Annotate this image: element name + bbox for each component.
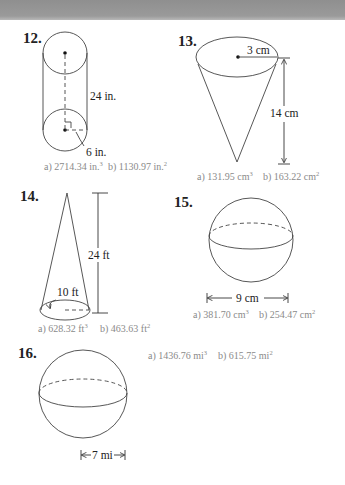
svg-text:a) 1436.76 mi3: a) 1436.76 mi3: [148, 349, 207, 362]
problem-14: 14. 10 ft 24 ft a) 628.32 ft3 b) 463.63 …: [20, 188, 150, 335]
right-angle-mark: [65, 122, 71, 128]
radius-label: 3 cm: [247, 44, 270, 56]
problem-number: 16.: [18, 345, 37, 361]
svg-text:a) 131.95 cm3: a) 131.95 cm3: [197, 170, 253, 183]
answers: a) 2714.34 in.3 b) 1130.97 in.2: [44, 160, 167, 173]
svg-text:b) 463.63 ft2: b) 463.63 ft2: [100, 322, 150, 335]
problem-number: 14.: [20, 188, 39, 204]
svg-text:b) 1130.97 in.2: b) 1130.97 in.2: [108, 160, 167, 173]
problem-number: 15.: [174, 194, 193, 210]
cylinder-shape: [43, 32, 87, 151]
radius-label: 6 in.: [86, 146, 107, 158]
svg-text:a) 381.70 cm3: a) 381.70 cm3: [193, 308, 249, 321]
diameter-label: 9 cm: [236, 292, 259, 304]
radius-pointer: [76, 132, 84, 146]
problem-12: 12. 24 in. 6 in. a) 2714.34 in.3 b) 1130…: [23, 30, 167, 173]
problem-number: 12.: [23, 30, 42, 46]
height-label: 24 ft: [88, 249, 110, 261]
answers: a) 131.95 cm3 b) 163.22 cm2: [197, 170, 319, 183]
cone-shape: [40, 193, 90, 320]
answers: a) 381.70 cm3 b) 254.47 cm2: [193, 308, 315, 321]
svg-text:b) 254.47 cm2: b) 254.47 cm2: [259, 308, 315, 321]
svg-text:b) 615.75 mi2: b) 615.75 mi2: [218, 349, 273, 362]
radius-label: 7 mi: [92, 449, 113, 461]
svg-text:b) 163.22 cm2: b) 163.22 cm2: [263, 170, 319, 183]
problem-16: 16. 7 mi a) 1436.76 mi3 b) 615.75 mi2: [18, 345, 273, 461]
svg-text:a) 628.32 ft3: a) 628.32 ft3: [38, 322, 88, 335]
top-center-dot: [63, 51, 67, 55]
worksheet-page: 12. 24 in. 6 in. a) 2714.34 in.3 b) 1130…: [0, 0, 345, 485]
answers: a) 628.32 ft3 b) 463.63 ft2: [38, 322, 150, 335]
answers: a) 1436.76 mi3 b) 615.75 mi2: [148, 349, 273, 362]
problem-15: 15. 9 cm a) 381.70 cm3 b) 254.47 cm2: [174, 194, 315, 321]
radius-label: 10 ft: [57, 286, 79, 298]
sphere-shape: [209, 198, 293, 282]
geometry-diagrams: 12. 24 in. 6 in. a) 2714.34 in.3 b) 1130…: [0, 0, 345, 485]
height-label: 14 cm: [270, 107, 298, 119]
height-label: 24 in.: [90, 90, 116, 102]
sphere-shape: [39, 350, 127, 438]
problem-number: 13.: [178, 33, 197, 49]
svg-text:a) 2714.34 in.3: a) 2714.34 in.3: [44, 160, 103, 173]
problem-13: 13. 3 cm 14 cm a) 131.95 cm3 b) 163.22 c…: [178, 33, 319, 183]
